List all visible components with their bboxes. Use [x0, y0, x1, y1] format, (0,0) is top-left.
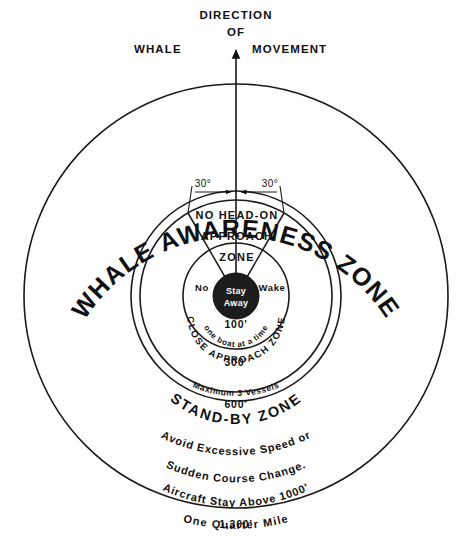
no-label: No [195, 282, 209, 293]
diagram-canvas: DIRECTION OF WHALE MOVEMENT 30° 30° WHAL… [0, 0, 470, 546]
advisory-line1: Avoid Excessive Speed or [160, 428, 313, 457]
no-head-on-line1: NO HEAD-ON [196, 209, 279, 221]
angle-leader-left [188, 186, 192, 213]
advisory-line2-text: Sudden Course Change. [165, 458, 308, 484]
direction-heading-line2: OF [227, 26, 245, 38]
direction-heading-movement: MOVEMENT [252, 43, 327, 55]
angle-leader-right [280, 186, 284, 213]
advisory-line2: Sudden Course Change. [165, 458, 308, 484]
outer-distance: 1,300' [219, 518, 253, 530]
angle-label-right: 30° [262, 178, 278, 189]
direction-heading-whale: WHALE [134, 43, 182, 55]
no-head-on-line3: ZONE [219, 251, 254, 263]
advisory-line3-text: Aircraft Stay Above 1000' [162, 481, 311, 508]
stay-away-line1: Stay [226, 286, 246, 296]
no-head-on-line2: APPROACH [201, 230, 274, 242]
wake-label: Wake [259, 282, 286, 293]
whale-awareness-zone-diagram: DIRECTION OF WHALE MOVEMENT 30° 30° WHAL… [0, 0, 470, 546]
advisory-line1-text: Avoid Excessive Speed or [160, 428, 313, 457]
stay-away-line2: Away [224, 298, 249, 308]
standby-outer-distance: 600' [224, 398, 247, 410]
angle-label-left: 30° [195, 178, 211, 189]
advisory-line3: Aircraft Stay Above 1000' [162, 481, 311, 508]
standby-inner-distance: 300' [224, 356, 247, 368]
close-approach-distance: 100' [224, 318, 247, 330]
direction-heading-line1: DIRECTION [199, 9, 272, 21]
